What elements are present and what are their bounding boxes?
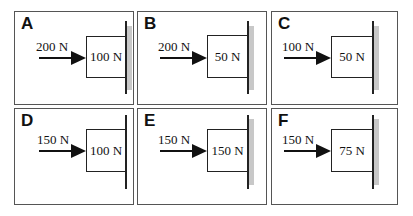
block-weight-label: 150 N bbox=[211, 143, 243, 159]
applied-force-label: 100 N bbox=[282, 40, 314, 54]
block-weight-label: 75 N bbox=[339, 143, 365, 159]
applied-force-label: 150 N bbox=[282, 133, 314, 147]
applied-force-label: 200 N bbox=[158, 40, 190, 54]
force-arrow-shaft bbox=[39, 150, 73, 152]
force-arrow-shaft bbox=[284, 57, 318, 59]
wall bbox=[247, 115, 249, 189]
wall-shade bbox=[127, 26, 132, 90]
wall-shade bbox=[374, 26, 379, 90]
applied-force-label: 200 N bbox=[36, 40, 68, 54]
block-weight-label: 50 N bbox=[215, 49, 241, 65]
panel-letter: D bbox=[21, 112, 33, 130]
block: 100 N bbox=[86, 36, 126, 78]
wall-shade bbox=[374, 119, 379, 185]
panel-e: E 150 N 150 N bbox=[137, 108, 267, 205]
scenario-grid: A 200 N 100 N B 200 N 50 N C 100 N 50 N bbox=[14, 11, 398, 205]
arrow-right-icon bbox=[192, 51, 207, 65]
block-weight-label: 100 N bbox=[90, 143, 122, 159]
panel-letter: E bbox=[144, 112, 155, 130]
arrow-right-icon bbox=[316, 144, 331, 158]
applied-force-label: 150 N bbox=[37, 133, 69, 147]
block: 75 N bbox=[331, 129, 373, 172]
block: 100 N bbox=[86, 129, 126, 172]
panel-b: B 200 N 50 N bbox=[137, 11, 267, 105]
force-arrow-shaft bbox=[160, 150, 194, 152]
arrow-right-icon bbox=[71, 144, 86, 158]
wall bbox=[372, 21, 374, 94]
panel-c: C 100 N 50 N bbox=[271, 11, 398, 105]
arrow-right-icon bbox=[316, 51, 331, 65]
arrow-right-icon bbox=[192, 144, 207, 158]
wall-shade bbox=[249, 26, 254, 90]
wall bbox=[247, 21, 249, 94]
wall bbox=[372, 115, 374, 189]
arrow-right-icon bbox=[71, 51, 86, 65]
wall bbox=[125, 21, 127, 94]
panel-d: D 150 N 100 N bbox=[14, 108, 134, 205]
force-arrow-shaft bbox=[160, 57, 194, 59]
panel-f: F 150 N 75 N bbox=[271, 108, 398, 205]
panel-letter: A bbox=[21, 15, 33, 33]
panel-letter: C bbox=[278, 15, 290, 33]
block: 50 N bbox=[207, 35, 248, 78]
block: 50 N bbox=[331, 36, 373, 78]
wall-shade bbox=[249, 119, 254, 185]
wall bbox=[125, 115, 127, 189]
block-weight-label: 50 N bbox=[339, 49, 365, 65]
panel-a: A 200 N 100 N bbox=[14, 11, 134, 105]
panel-letter: F bbox=[278, 112, 288, 130]
panel-letter: B bbox=[144, 15, 156, 33]
force-arrow-shaft bbox=[39, 57, 73, 59]
block-weight-label: 100 N bbox=[90, 49, 122, 65]
force-arrow-shaft bbox=[284, 150, 318, 152]
applied-force-label: 150 N bbox=[158, 133, 190, 147]
block: 150 N bbox=[207, 129, 248, 172]
